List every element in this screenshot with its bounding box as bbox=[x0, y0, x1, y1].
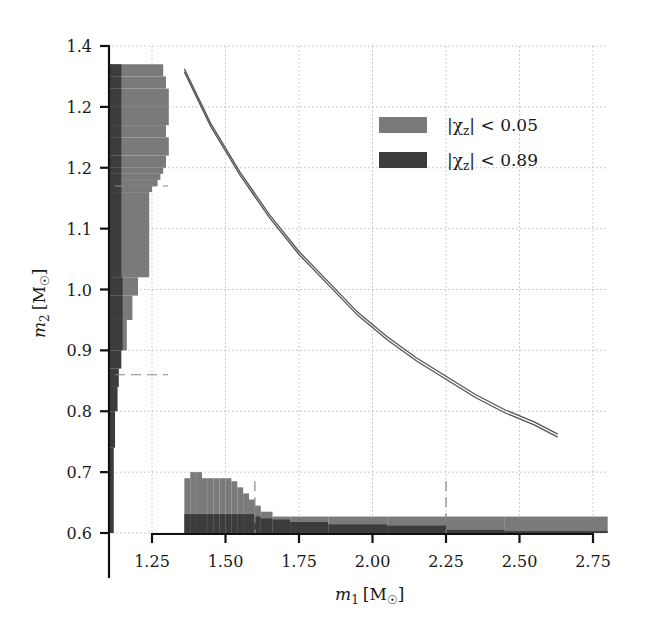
y-tick-label: 1.2 bbox=[67, 159, 92, 178]
histogram-bar-high-spin bbox=[231, 514, 237, 533]
histogram-bar-high-spin bbox=[110, 180, 121, 186]
histogram-bar-high-spin bbox=[387, 526, 446, 533]
histogram-bar-high-spin bbox=[226, 514, 232, 533]
histogram-bar-high-spin bbox=[110, 320, 123, 350]
histogram-bar-high-spin bbox=[110, 192, 121, 277]
y-tick-label: 0.8 bbox=[67, 402, 92, 421]
histogram-bar-high-spin bbox=[196, 514, 202, 533]
histogram-bar-high-spin bbox=[261, 518, 273, 533]
histogram-bar-high-spin bbox=[110, 156, 121, 168]
histogram-bar-high-spin bbox=[255, 517, 261, 533]
y-axis-label: m2[M☉] bbox=[29, 269, 52, 338]
histogram-bar-high-spin bbox=[446, 530, 505, 533]
histogram-bar-high-spin bbox=[237, 514, 243, 533]
histogram-bar-low-spin bbox=[505, 517, 608, 533]
x-axis-label: m1[M☉] bbox=[335, 584, 404, 607]
histogram-bar-high-spin bbox=[110, 168, 121, 174]
legend-swatch-low-spin bbox=[379, 117, 427, 133]
legend-swatch-high-spin bbox=[379, 152, 427, 168]
histogram-bar-high-spin bbox=[110, 107, 121, 125]
mass-posterior-chart: 1.41.21.21.11.00.90.80.70.61.251.501.752… bbox=[0, 0, 646, 636]
y-tick-label: 0.9 bbox=[67, 341, 92, 360]
histogram-bar-high-spin bbox=[243, 514, 249, 533]
y-tick-label: 0.6 bbox=[67, 524, 92, 543]
histogram-bar-high-spin bbox=[110, 64, 121, 76]
dashed-credible-markers bbox=[115, 186, 446, 533]
y-tick-label: 0.7 bbox=[67, 463, 92, 482]
m1-marginal-histogram bbox=[184, 472, 607, 533]
histogram-bar-high-spin bbox=[273, 520, 291, 533]
y-tick-label: 1.2 bbox=[67, 98, 92, 117]
histogram-bar-high-spin bbox=[208, 514, 214, 533]
x-tick-label: 2.50 bbox=[502, 552, 538, 571]
histogram-bar-high-spin bbox=[214, 514, 220, 533]
y-tick-label: 1.1 bbox=[67, 220, 92, 239]
histogram-bar-high-spin bbox=[110, 411, 115, 448]
histogram-bar-high-spin bbox=[110, 76, 121, 88]
histogram-bar-high-spin bbox=[110, 89, 121, 107]
m2-marginal-histogram bbox=[110, 64, 169, 533]
histogram-bar-high-spin bbox=[328, 524, 387, 533]
histogram-bar-high-spin bbox=[110, 137, 121, 155]
histogram-bar-high-spin bbox=[110, 448, 114, 533]
histogram-bar-high-spin bbox=[190, 514, 196, 533]
histogram-bar-high-spin bbox=[110, 277, 123, 295]
legend-label-low-spin: |χz| < 0.05 bbox=[447, 115, 538, 138]
histogram-bar-high-spin bbox=[110, 296, 123, 320]
histogram-bar-high-spin bbox=[110, 369, 119, 387]
y-tick-label: 1.4 bbox=[67, 37, 92, 56]
legend: |χz| < 0.05 |χz| < 0.89 bbox=[379, 115, 538, 173]
histogram-bar-high-spin bbox=[505, 531, 608, 533]
legend-label-high-spin: |χz| < 0.89 bbox=[447, 150, 538, 173]
histogram-bar-high-spin bbox=[110, 174, 121, 180]
x-tick-label: 2.25 bbox=[428, 552, 464, 571]
y-tick-label: 1.0 bbox=[67, 281, 92, 300]
x-tick-label: 1.25 bbox=[134, 552, 170, 571]
histogram-bar-high-spin bbox=[110, 186, 121, 192]
x-tick-label: 1.75 bbox=[281, 552, 317, 571]
histogram-bar-high-spin bbox=[184, 514, 190, 533]
histogram-bar-high-spin bbox=[220, 514, 226, 533]
x-tick-label: 1.50 bbox=[208, 552, 244, 571]
histogram-bar-high-spin bbox=[290, 522, 328, 533]
histogram-bar-high-spin bbox=[202, 514, 208, 533]
histogram-bar-high-spin bbox=[110, 387, 118, 411]
histogram-bar-high-spin bbox=[249, 514, 255, 533]
histogram-bar-high-spin bbox=[110, 125, 121, 137]
x-tick-label: 2.00 bbox=[355, 552, 391, 571]
histogram-bar-high-spin bbox=[110, 350, 121, 368]
x-tick-label: 2.75 bbox=[575, 552, 611, 571]
